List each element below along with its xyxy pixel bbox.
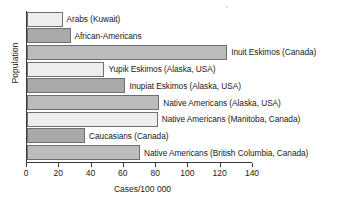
- bar-row: Native Americans (Alaska, USA): [27, 95, 253, 110]
- x-axis-title-text: Cases/100 000: [114, 184, 171, 194]
- x-axis-tick: [58, 163, 59, 167]
- x-axis-tick-label: 140: [245, 168, 259, 178]
- x-axis-tick-label: 20: [54, 168, 63, 178]
- bar-row: Inuit Eskimos (Canada): [27, 45, 253, 60]
- bar-row: Yupik Eskimos (Alaska, USA): [27, 62, 253, 77]
- bar-category-label: Native Americans (Manitoba, Canada): [162, 114, 300, 124]
- bar-row: Inupiat Eskimos (Alaska, USA): [27, 78, 253, 93]
- artifact-speck: [226, 6, 228, 8]
- bar: [27, 145, 140, 160]
- bar-row: Arabs (Kuwait): [27, 12, 253, 27]
- bar-category-label: Arabs (Kuwait): [67, 14, 121, 24]
- x-axis-tick-label: 0: [24, 168, 29, 178]
- y-axis-title: Population: [10, 18, 20, 108]
- bar-row: African-Americans: [27, 28, 253, 43]
- x-axis-tick: [252, 163, 253, 167]
- bar: [27, 62, 104, 77]
- bar: [27, 12, 63, 27]
- bar-row: Native Americans (Manitoba, Canada): [27, 112, 253, 127]
- bar-category-label: Inupiat Eskimos (Alaska, USA): [129, 81, 241, 91]
- x-axis-title: Cases/100 000: [0, 184, 340, 194]
- bar-category-label: African-Americans: [75, 31, 142, 41]
- x-axis-tick: [220, 163, 221, 167]
- x-axis-tick: [155, 163, 156, 167]
- x-axis-tick-label: 100: [180, 168, 194, 178]
- bar-row: Native Americans (British Columbia, Cana…: [27, 145, 253, 160]
- bar: [27, 112, 158, 127]
- bar-category-label: Caucasians (Canada): [89, 131, 168, 141]
- bar: [27, 78, 125, 93]
- bar: [27, 95, 159, 110]
- x-axis-tick-label: 60: [118, 168, 127, 178]
- x-axis-tick: [123, 163, 124, 167]
- plot-area: Arabs (Kuwait)African-AmericansInuit Esk…: [26, 11, 252, 163]
- bar-row: Caucasians (Canada): [27, 128, 253, 143]
- bar-chart: Population Arabs (Kuwait)African-America…: [0, 0, 340, 209]
- x-axis-tick-label: 120: [213, 168, 227, 178]
- bar-category-label: Native Americans (Alaska, USA): [163, 98, 280, 108]
- bar-category-label: Inuit Eskimos (Canada): [231, 47, 316, 57]
- bar: [27, 128, 85, 143]
- x-axis-tick: [91, 163, 92, 167]
- bar: [27, 45, 227, 60]
- bar-category-label: Yupik Eskimos (Alaska, USA): [108, 64, 215, 74]
- bar-category-label: Native Americans (British Columbia, Cana…: [144, 148, 308, 158]
- x-axis-tick-label: 40: [86, 168, 95, 178]
- x-axis-tick: [187, 163, 188, 167]
- x-axis-tick: [26, 163, 27, 167]
- x-axis-tick-label: 80: [150, 168, 159, 178]
- bar: [27, 28, 71, 43]
